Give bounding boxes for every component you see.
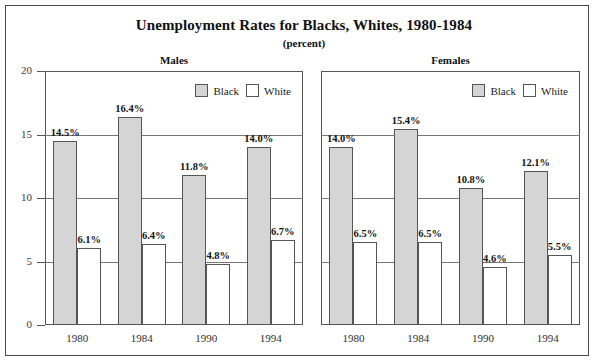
y-axis-label: 15 xyxy=(6,129,32,140)
bar-value-label: 6.4% xyxy=(131,230,177,241)
bar-value-label: 5.5% xyxy=(537,241,583,252)
legend-swatch-white-icon xyxy=(246,84,259,97)
y-axis-label: 20 xyxy=(6,65,32,76)
bar-white-1994 xyxy=(548,255,572,325)
panel-title-males: Males xyxy=(45,54,303,66)
bar-black-1984 xyxy=(118,117,142,325)
bar-white-1990 xyxy=(206,264,230,325)
bar-white-1984 xyxy=(142,244,166,325)
legend-item-white: White xyxy=(523,84,568,97)
y-axis-label: 0 xyxy=(6,319,32,330)
x-axis-label-1990: 1990 xyxy=(451,332,516,344)
bar-value-label: 6.7% xyxy=(260,226,306,237)
bar-value-label: 6.1% xyxy=(66,234,112,245)
legend-label: White xyxy=(541,85,568,97)
y-axis-label: 5 xyxy=(6,256,32,267)
legend-label: Black xyxy=(213,85,239,97)
legend-item-black: Black xyxy=(472,84,516,97)
chart-subtitle: (percent) xyxy=(6,37,596,49)
legend: BlackWhite xyxy=(195,84,291,97)
panel-males: Males 14.5%6.1%198016.4%6.4%198411.8%4.8… xyxy=(45,71,303,325)
chart-frame: Unemployment Rates for Blacks, Whites, 1… xyxy=(5,5,589,356)
bar-value-label: 6.5% xyxy=(342,228,388,239)
bar-value-label: 16.4% xyxy=(107,103,153,114)
x-axis-label-1984: 1984 xyxy=(386,332,451,344)
bar-value-label: 15.4% xyxy=(383,115,429,126)
x-axis-label-1994: 1994 xyxy=(239,332,304,344)
bar-value-label: 4.8% xyxy=(195,250,241,261)
x-axis-label-1990: 1990 xyxy=(174,332,239,344)
legend-label: Black xyxy=(490,85,516,97)
y-axis-tick xyxy=(37,198,45,199)
y-axis-tick xyxy=(37,71,45,72)
legend-swatch-black-icon xyxy=(472,84,485,97)
legend-swatch-black-icon xyxy=(195,84,208,97)
bar-white-1990 xyxy=(483,267,507,325)
bar-black-1984 xyxy=(394,129,418,325)
x-axis-label-1980: 1980 xyxy=(45,332,110,344)
legend: BlackWhite xyxy=(472,84,568,97)
x-axis-label-1980: 1980 xyxy=(321,332,386,344)
panel-title-females: Females xyxy=(321,54,580,66)
legend-item-white: White xyxy=(246,84,291,97)
bar-white-1984 xyxy=(418,242,442,325)
bar-value-label: 14.0% xyxy=(318,133,364,144)
legend-swatch-white-icon xyxy=(523,84,536,97)
bar-white-1994 xyxy=(271,240,295,325)
bar-value-label: 14.0% xyxy=(236,133,282,144)
y-axis-label: 10 xyxy=(6,192,32,203)
x-axis-label-1984: 1984 xyxy=(110,332,175,344)
bar-white-1980 xyxy=(77,248,101,325)
legend-item-black: Black xyxy=(195,84,239,97)
bar-value-label: 11.8% xyxy=(171,161,217,172)
y-axis-tick xyxy=(37,325,45,326)
bar-value-label: 10.8% xyxy=(448,174,494,185)
bar-white-1980 xyxy=(353,242,377,325)
bar-value-label: 6.5% xyxy=(407,228,453,239)
x-axis-label-1994: 1994 xyxy=(515,332,580,344)
bar-value-label: 4.6% xyxy=(472,253,518,264)
chart-title: Unemployment Rates for Blacks, Whites, 1… xyxy=(6,17,596,34)
legend-label: White xyxy=(264,85,291,97)
y-axis-tick xyxy=(37,262,45,263)
bar-value-label: 12.1% xyxy=(513,157,559,168)
panel-females: Females 14.0%6.5%198015.4%6.5%198410.8%4… xyxy=(321,71,580,325)
bar-value-label: 14.5% xyxy=(42,127,88,138)
